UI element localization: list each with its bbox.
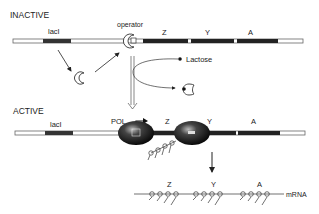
a-gene-segment [237, 39, 278, 43]
laci-gene-segment [43, 39, 71, 43]
active-gene-y-label: Y [207, 117, 212, 126]
inactive-dna-strand [13, 39, 303, 43]
expression-arrow-icon [58, 50, 71, 71]
mrna-a-label: A [257, 180, 262, 189]
active-gene-z-label: Z [165, 117, 170, 126]
lactose-dot-icon [178, 57, 182, 61]
laci-label: lacI [48, 27, 60, 36]
active-gene-a-label: A [251, 117, 256, 126]
inactivated-repressor-icon [182, 84, 194, 95]
gene-a-label: A [248, 28, 253, 37]
active-dna-strand [15, 131, 305, 135]
z-gene-segment [143, 39, 188, 43]
inactive-title: INACTIVE [10, 10, 50, 20]
nascent-mrna-icon [148, 141, 176, 160]
lactose-path-icon [133, 59, 178, 88]
gene-y-label: Y [205, 28, 210, 37]
gene-z-label: Z [162, 28, 167, 37]
rna-polymerase-1-icon [118, 121, 154, 145]
lactose-label: Lactose [186, 55, 212, 64]
lac-operon-diagram: INACTIVE lacI operator Z Y A Lactose ACT… [0, 0, 319, 214]
mrna-label: mRNA [286, 191, 307, 198]
active-laci-label: lacI [50, 120, 62, 129]
mrna-z-label: Z [167, 180, 172, 189]
binding-arrow-icon [95, 53, 119, 72]
active-title: ACTIVE [13, 106, 44, 116]
y-gene-segment [191, 39, 234, 43]
mrna-strand-icon [134, 192, 284, 205]
free-repressor-icon [75, 72, 84, 84]
transition-arrow-icon [128, 56, 137, 109]
mrna-y-label: Y [211, 180, 216, 189]
operator-label: operator [117, 21, 144, 29]
active-ya-gene-segment [238, 131, 280, 135]
active-laci-gene-segment [45, 131, 73, 135]
